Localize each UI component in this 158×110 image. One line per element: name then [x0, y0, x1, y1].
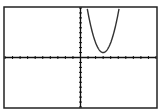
graph-plot [0, 0, 158, 110]
calculator-graph-screen [0, 0, 158, 110]
